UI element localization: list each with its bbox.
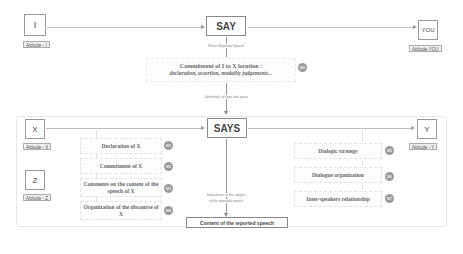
say-node[interactable]: SAY <box>206 16 246 36</box>
listener-you-node[interactable]: YOU <box>418 20 438 40</box>
content-reported-speech-box[interactable]: Content of the reported speech <box>186 217 288 228</box>
commitment-of-i-box[interactable]: Commitment of I to X locution : declarat… <box>146 58 296 82</box>
connector-say-you <box>248 27 414 28</box>
badge-m7: M7 <box>385 194 394 203</box>
arrow-right-icon <box>201 25 205 29</box>
left-item-commitment[interactable]: Commitment of X <box>80 158 162 174</box>
direct-reported-speech-caption: Direct Reported Speech <box>200 44 252 48</box>
connector-i-say <box>47 27 202 28</box>
commitment-line-2: declaration, assertion, modality judgeme… <box>170 70 273 76</box>
arrow-right-icon <box>201 126 205 130</box>
attitude-i-tag: Attitude - I <box>23 41 50 48</box>
listener-y-label: Y <box>424 125 429 134</box>
says-node[interactable]: SAYS <box>207 118 247 138</box>
badge-m5: M5 <box>385 146 394 155</box>
speaker-i-node[interactable]: I <box>24 14 46 36</box>
speaker-z-node[interactable]: Z <box>25 170 45 190</box>
connector-says-y <box>248 128 412 129</box>
left-item-organization[interactable]: Organization of the discourse of X <box>80 201 162 220</box>
attitude-y-tag: Attitude - Y <box>409 143 437 150</box>
says-label: SAYS <box>214 123 240 134</box>
arrow-right-icon <box>411 126 415 130</box>
listener-you-label: YOU <box>421 27 434 33</box>
badge-m6: M6 <box>385 172 394 181</box>
badge-m2: M2 <box>164 162 173 171</box>
attitude-x-tag: Attitude - X <box>23 143 51 150</box>
badge-m4: M4 <box>164 206 173 215</box>
commitment-line-1: Commitment of I to X locution : <box>170 63 273 70</box>
speaker-x-node[interactable]: X <box>25 119 45 139</box>
badge-m1: M1 <box>164 141 173 150</box>
left-item-comments[interactable]: Comments on the content of the speech of… <box>80 178 162 197</box>
adverbials-caption: Adverbials of time and space <box>198 95 254 99</box>
right-item-dialogue-organization[interactable]: Dialogue organization <box>294 167 382 183</box>
left-item-declaration[interactable]: Declaration of X <box>80 138 162 154</box>
badge-m3: M3 <box>164 184 173 193</box>
speaker-z-label: Z <box>33 176 38 185</box>
say-label: SAY <box>216 21 236 32</box>
connector-x-says <box>46 128 202 129</box>
right-item-inter-speakers[interactable]: Inter-speakers relationship <box>294 191 382 207</box>
arrow-down-icon <box>224 111 228 115</box>
attitude-you-tag: Attitude-YOU <box>409 45 442 52</box>
badge-m0: M0 <box>298 63 307 72</box>
indications-caption-1: Indications of the subject <box>196 193 256 197</box>
connector-says-content <box>226 139 227 215</box>
listener-y-node[interactable]: Y <box>417 119 437 139</box>
arrow-right-icon <box>413 25 417 29</box>
speaker-i-label: I <box>34 20 37 30</box>
speaker-x-label: X <box>32 125 37 134</box>
indications-caption-2: of the reported speech <box>196 199 256 203</box>
right-item-dialogic-strategy[interactable]: Dialogic strategy <box>294 143 382 159</box>
attitude-z-tag: Attitude - Z <box>23 194 51 201</box>
